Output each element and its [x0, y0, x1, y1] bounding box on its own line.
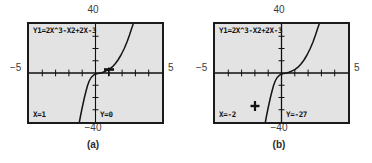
trace-cursor-b: [251, 101, 260, 111]
graph-svg-a: [29, 24, 162, 122]
calculator-screen-b: Y1=2X^3-X2+2X-3 X=-2 Y=-27: [213, 22, 350, 124]
figure-panel-a: 40 −5 5 −40: [0, 0, 186, 163]
x-max-label-b: 5: [354, 62, 360, 73]
panel-caption-a: (a): [0, 139, 186, 150]
x-min-label-b: −5: [196, 62, 207, 73]
plot-area-b: Y1=2X^3-X2+2X-3 X=-2 Y=-27: [215, 24, 348, 122]
x-max-label-a: 5: [168, 62, 174, 73]
y-max-label-b: 40: [186, 4, 372, 15]
panel-caption-b: (b): [186, 139, 372, 150]
y-max-label-a: 40: [0, 4, 186, 15]
graph-svg-b: [215, 24, 348, 122]
trace-x-readout-b: X=-2: [219, 110, 236, 119]
equation-label-a: Y1=2X^3-X2+2X-3: [33, 26, 96, 35]
x-min-label-a: −5: [10, 62, 21, 73]
trace-x-readout-a: X=1: [33, 110, 46, 119]
trace-y-readout-b: Y=-27: [286, 110, 307, 119]
trace-y-readout-a: Y=0: [100, 110, 113, 119]
calculator-screen-a: Y1=2X^3-X2+2X-3 X=1 Y=0: [27, 22, 164, 124]
figure-panel-b: 40 −5 5 −40: [186, 0, 372, 163]
plot-area-a: Y1=2X^3-X2+2X-3 X=1 Y=0: [29, 24, 162, 122]
equation-label-b: Y1=2X^3-X2+2X-3: [219, 26, 282, 35]
